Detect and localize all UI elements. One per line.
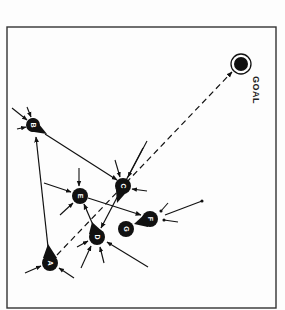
node-a: A — [42, 244, 58, 271]
edge-e-to-f — [88, 198, 141, 215]
goal-inner-dot — [234, 57, 248, 71]
edges — [36, 72, 232, 255]
node-c: C — [115, 178, 131, 203]
node-a-label: A — [47, 260, 54, 265]
node-g: G — [118, 221, 134, 237]
edge-b-to-c — [45, 134, 117, 180]
node-c-label: C — [120, 183, 127, 188]
node-e: E — [72, 188, 88, 204]
node-e-label: E — [77, 194, 84, 199]
edge-a-to-goal-dashed — [57, 72, 232, 255]
edge-a-to-b — [36, 137, 48, 247]
node-d-label: D — [94, 234, 101, 239]
goal-label: GOAL — [251, 76, 261, 104]
node-b: B — [26, 118, 47, 134]
node-b-label: B — [30, 122, 37, 127]
node-g-label: G — [123, 226, 130, 232]
node-f-label: F — [147, 217, 154, 222]
goal-target: GOAL — [231, 54, 261, 104]
diagram-canvas: GOAL B C E D F G A — [0, 0, 285, 310]
